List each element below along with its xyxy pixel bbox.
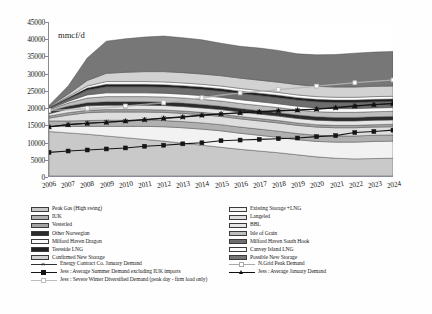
legend-item-label: Teesside LNG [52,247,83,253]
series-marker [162,143,166,147]
series-marker [238,138,242,142]
plot-area [48,22,393,177]
legend-swatch-icon [31,239,49,244]
legend-line-icon: ✕ [31,261,57,268]
x-axis-tick-label: 2015 [214,179,229,190]
legend-item[interactable]: Isle of Grain [229,229,429,237]
legend-item-label: Jess : Average January Demand [258,269,326,275]
series-marker [181,142,185,146]
legend-line-icon [31,277,57,284]
legend-item-label: Jess : Severe Winter Diversified Demand … [60,277,207,283]
series-marker [334,134,338,138]
series-marker [66,149,70,153]
legend-column-left: Peak Gas (High swing)IUKVesterledOther N… [31,205,221,262]
y-axis: 4500040000350003000025000200001500010000… [0,22,45,177]
legend-item[interactable]: Milford Haven Dragon [31,237,221,245]
x-axis-tick-label: 2007 [60,179,75,190]
x-axis-tick-label: 2020 [309,179,324,190]
legend-item[interactable]: Peak Gas (High swing) [31,205,221,213]
legend-item[interactable]: Vesterled [31,221,221,229]
legend-item[interactable]: BBL [229,221,429,229]
legend-item[interactable]: Jess : Average Summer Demand excluding I… [31,268,229,276]
legend-swatch-icon [229,239,247,244]
legend-swatch-icon [31,215,49,220]
legend-row: Jess : Severe Winter Diversified Demand … [31,276,431,284]
legend-item-label: Canvey Island LNG [250,247,293,253]
series-marker [238,91,242,95]
x-axis-tick-label: 2023 [367,179,382,190]
legend-item-label: Peak Gas (High swing) [52,206,102,212]
series-marker [295,136,299,140]
y-axis-tick-label: 35000 [27,52,45,61]
legend-swatch-icon [229,231,247,236]
legend-item-label: Energy Contract Co. January Demand [60,261,142,267]
x-axis-tick-label: 2018 [271,179,286,190]
legend-swatch-icon [31,231,49,236]
x-axis-tick-label: 2022 [348,179,363,190]
unit-label: mmcf/d [58,30,85,40]
legend-item-label: Existing Storage +LNG [250,206,301,212]
legend-item-label: N.Grid Peak Demand [258,261,305,267]
legend-line-icon [31,269,57,276]
legend-item-label: BBL [250,222,261,228]
legend-item[interactable]: Langeled [229,213,429,221]
series-marker [123,146,127,150]
x-axis-tick-label: 2009 [99,179,114,190]
legend-swatch-icon [31,223,49,228]
legend-item-label: Jess : Average Summer Demand excluding I… [60,269,181,275]
legend-item[interactable]: Existing Storage +LNG [229,205,429,213]
series-marker [162,101,166,105]
y-axis-tick-label: 20000 [27,104,45,113]
series-marker [315,84,319,88]
y-axis-tick-label: 5000 [31,155,45,164]
legend-swatch-icon [229,207,247,212]
legend-item[interactable]: Teesside LNG [31,245,221,253]
series-marker [353,131,357,135]
series-marker [104,147,108,151]
legend-swatch-icon [31,207,49,212]
series-marker [200,96,204,100]
plot-svg [49,22,393,176]
series-marker [85,148,89,152]
legend-item[interactable]: Canvey Island LNG [229,245,429,253]
x-axis-tick-label: 2008 [79,179,94,190]
x-axis-tick-label: 2021 [329,179,344,190]
x-axis: 2006200720082009201020112012201320142015… [48,179,393,199]
chart-legend: Peak Gas (High swing)IUKVesterledOther N… [0,205,432,314]
series-marker [277,88,281,92]
legend-item-label: Isle of Grain [250,231,277,237]
series-marker [391,128,393,132]
x-axis-tick-label: 2024 [386,179,401,190]
legend-line-icon [229,269,255,276]
legend-item[interactable]: ✕Energy Contract Co. January Demand [31,260,229,268]
y-axis-tick-label: 15000 [27,121,45,130]
series-marker [200,141,204,145]
legend-item[interactable]: Jess : Severe Winter Diversified Demand … [31,276,229,284]
legend-item[interactable]: Other Norwegian [31,229,221,237]
x-axis-tick-label: 2019 [290,179,305,190]
chart-page: 4500040000350003000025000200001500010000… [0,0,432,314]
series-marker [49,109,51,113]
x-axis-tick-label: 2010 [118,179,133,190]
y-axis-tick-label: 10000 [27,138,45,147]
legend-line-entries: ✕Energy Contract Co. January DemandN.Gri… [31,260,431,284]
legend-row: Jess : Average Summer Demand excluding I… [31,268,431,276]
legend-item-label: Langeled [250,214,270,220]
legend-item[interactable]: IUK [31,213,221,221]
y-axis-tick-label: 45000 [27,18,45,27]
legend-item-label: Milford Haven South Hook [250,239,309,245]
series-marker [372,130,376,134]
x-axis-tick-label: 2013 [175,179,190,190]
legend-item[interactable]: N.Grid Peak Demand [229,260,305,268]
y-axis-tick-label: 40000 [27,35,45,44]
legend-item[interactable]: Milford Haven South Hook [229,237,429,245]
series-marker [143,144,147,148]
legend-item-label: Milford Haven Dragon [52,239,102,245]
legend-item[interactable]: Jess : Average January Demand [229,268,326,276]
legend-column-right: Existing Storage +LNGLangeledBBLIsle of … [229,205,429,262]
series-marker [85,106,89,110]
stacked-area-chart: 4500040000350003000025000200001500010000… [0,0,432,200]
x-axis-tick-label: 2012 [156,179,171,190]
legend-swatch-icon [229,223,247,228]
x-axis-tick-label: 2006 [41,179,56,190]
